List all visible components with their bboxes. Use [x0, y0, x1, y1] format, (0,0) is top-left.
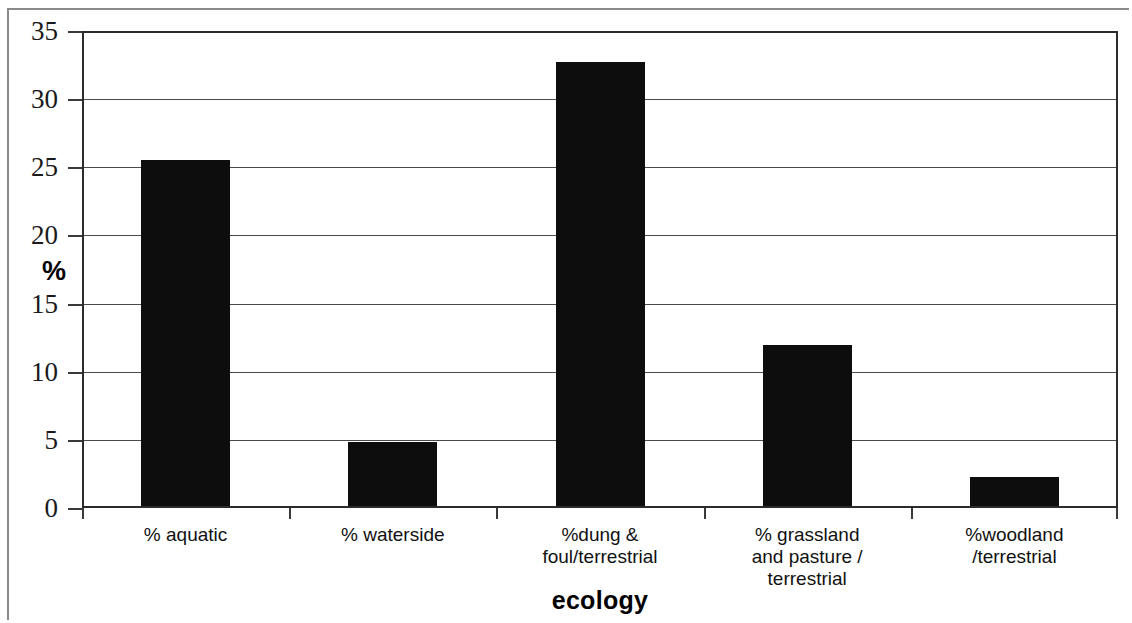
- y-tick-label: 20: [0, 222, 58, 249]
- y-tick-mark: [68, 372, 82, 374]
- x-tick-mark: [1116, 508, 1118, 519]
- x-tick-label: % aquatic: [82, 524, 289, 546]
- x-tick-label-line: % aquatic: [82, 524, 289, 546]
- y-tick-mark: [68, 508, 82, 510]
- y-tick-label: 15: [0, 290, 58, 317]
- y-tick-mark: [68, 99, 82, 101]
- bar: [141, 160, 230, 506]
- plot-area: [82, 31, 1118, 508]
- y-axis: 35302520151050: [0, 0, 58, 623]
- x-tick-label: % waterside: [289, 524, 496, 546]
- x-axis-labels: % aquatic% waterside%dung &foul/terrestr…: [82, 524, 1118, 594]
- bar: [763, 345, 852, 506]
- bar: [970, 477, 1059, 506]
- x-tick-label-line: % waterside: [289, 524, 496, 546]
- y-tick-label: 0: [0, 495, 58, 522]
- y-tick-label: 35: [0, 18, 58, 45]
- y-tick-label: 30: [0, 86, 58, 113]
- x-tick-mark: [82, 508, 84, 519]
- x-tick-mark: [911, 508, 913, 519]
- x-tick-mark: [496, 508, 498, 519]
- x-tick-label-line: /terrestrial: [911, 546, 1118, 568]
- bar-chart-figure: 35302520151050 % % aquatic% waterside%du…: [0, 0, 1132, 623]
- x-tick-label: % grasslandand pasture /terrestrial: [704, 524, 911, 590]
- y-tick-mark: [68, 167, 82, 169]
- y-tick-mark: [68, 235, 82, 237]
- x-tick-label-line: %woodland: [911, 524, 1118, 546]
- x-tick-mark: [704, 508, 706, 519]
- x-tick-label-line: and pasture /: [704, 546, 911, 568]
- x-tick-label-line: % grassland: [704, 524, 911, 546]
- x-axis-title: ecology: [82, 586, 1118, 615]
- x-tick-mark: [289, 508, 291, 519]
- y-tick-mark: [68, 31, 82, 33]
- bar: [556, 62, 645, 506]
- x-axis-ticks: [82, 508, 1118, 520]
- x-tick-label: %dung &foul/terrestrial: [496, 524, 703, 568]
- x-tick-label-line: foul/terrestrial: [496, 546, 703, 568]
- x-tick-label: %woodland/terrestrial: [911, 524, 1118, 568]
- y-tick-label: 25: [0, 154, 58, 181]
- y-tick-label: 5: [0, 426, 58, 453]
- x-tick-label-line: %dung &: [496, 524, 703, 546]
- y-axis-title: %: [8, 258, 66, 285]
- y-tick-label: 10: [0, 358, 58, 385]
- bar: [348, 442, 437, 506]
- y-tick-mark: [68, 304, 82, 306]
- y-tick-mark: [68, 440, 82, 442]
